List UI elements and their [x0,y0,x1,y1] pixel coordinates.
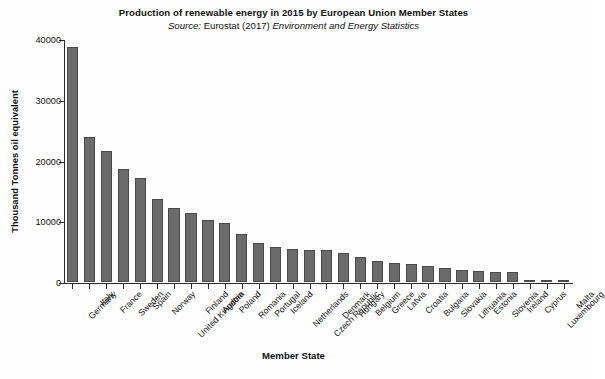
bar [558,280,569,282]
bar [118,169,129,282]
title-block: Production of renewable energy in 2015 b… [0,6,587,32]
subtitle-source-word: Source: [168,20,201,31]
bar [422,266,433,282]
bar [507,272,518,282]
bar [253,243,264,282]
bar [270,247,281,282]
y-tick-label: 30000 [35,96,61,106]
bar [355,257,366,283]
bar [490,272,501,282]
y-tick-label: 10000 [35,217,61,227]
bar [152,199,163,282]
bar [202,220,213,282]
bar [236,234,247,282]
bar [168,208,179,282]
bar [321,250,332,282]
plot-area: 010000200003000040000 [64,40,572,283]
y-tick-label: 20000 [35,157,61,167]
bar [84,137,95,282]
bar [135,178,146,282]
bar [219,223,230,282]
y-tick-label: 0 [56,278,61,288]
page-title: Production of renewable energy in 2015 b… [0,6,587,19]
x-axis-category-labels: GermanyItalyFranceSwedenSpainNorwayUnite… [64,289,572,349]
bar [406,264,417,282]
bar [524,280,535,282]
y-axis-title: Thousand Tonnes oil equivalent [6,40,22,283]
subtitle-publication: Environment and Energy Statistics [272,20,419,31]
bar [338,253,349,282]
y-axis-title-text: Thousand Tonnes oil equivalent [9,90,20,233]
bar [372,261,383,282]
y-axis-line [64,40,65,284]
bar [439,268,450,282]
bar [473,271,484,282]
chart-subtitle: Source: Eurostat (2017) Environment and … [0,19,587,32]
bar [287,249,298,282]
bar [389,263,400,282]
x-tick-label: Norway [170,289,198,317]
bar [185,213,196,282]
bar [304,250,315,282]
bar [456,270,467,282]
x-axis-title: Member State [0,350,587,361]
y-tick-label: 40000 [35,35,61,45]
bar [541,280,552,282]
bar [101,151,112,282]
bar [67,47,78,282]
subtitle-source-name: Eurostat (2017) [204,20,270,31]
